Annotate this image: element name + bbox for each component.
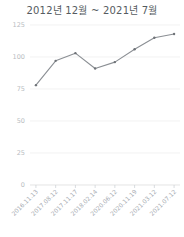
y-axis-tick-label: 25	[17, 149, 25, 157]
series-data-point	[54, 60, 56, 62]
y-axis-tick-label: 0	[21, 181, 25, 189]
series-data-point	[153, 37, 155, 39]
series-line	[36, 34, 174, 85]
series-data-point	[173, 33, 175, 35]
y-axis-tick-label: 75	[17, 85, 25, 93]
y-axis-tick-label: 100	[13, 53, 25, 61]
series-data-point	[114, 61, 116, 63]
series-data-point	[94, 67, 96, 69]
series-data-point	[133, 48, 135, 50]
y-axis-tick-label: 125	[13, 21, 25, 29]
series-data-point	[74, 52, 76, 54]
line-chart: 2012년 12월 ~ 2021년 7월 02550751001252016.1…	[0, 0, 184, 237]
chart-plot-area: 02550751001252016.11.132017.08.122017.11…	[0, 0, 184, 237]
series-data-point	[35, 84, 37, 86]
y-axis-tick-label: 50	[17, 117, 25, 125]
